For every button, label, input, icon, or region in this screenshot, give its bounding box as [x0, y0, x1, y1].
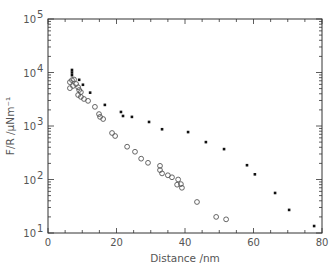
x-tick-label: 20 [110, 237, 123, 248]
data-point [146, 160, 151, 165]
data-point [214, 214, 219, 219]
x-tick-label: 80 [316, 237, 329, 248]
data-point [246, 164, 249, 167]
data-point [71, 69, 74, 72]
x-tick-labels: 020406080 [45, 237, 329, 248]
y-tick-label: 10 [23, 14, 36, 25]
data-point [313, 225, 316, 228]
x-tick-label: 40 [179, 237, 192, 248]
y-axis-label: F/R /μNm⁻¹ [4, 97, 16, 155]
data-point [97, 112, 102, 117]
x-tick-label: 60 [247, 237, 260, 248]
data-point [288, 209, 291, 212]
scatter-chart: 020406080 101102103104105 Distance /nm F… [0, 0, 333, 271]
y-tick-exponent: 4 [37, 63, 43, 74]
plot-frame [48, 19, 322, 233]
data-point [195, 200, 200, 205]
data-point [113, 134, 118, 139]
data-point [110, 131, 115, 136]
data-point [223, 148, 226, 151]
y-tick-exponent: 2 [37, 170, 43, 181]
data-point [78, 79, 81, 82]
series-filled [71, 69, 316, 228]
data-point [148, 121, 151, 124]
data-point [82, 83, 85, 86]
data-point [170, 175, 175, 180]
data-point [274, 192, 277, 195]
data-point [176, 177, 181, 182]
data-point [122, 115, 125, 118]
series-open [68, 77, 229, 222]
x-axis-label: Distance /nm [150, 252, 220, 264]
data-point [71, 74, 74, 77]
data-point [86, 98, 91, 103]
data-point [139, 156, 144, 161]
data-point [205, 141, 208, 144]
x-tick-label: 0 [45, 237, 51, 248]
data-point [125, 144, 130, 149]
y-tick-labels: 101102103104105 [23, 9, 43, 239]
data-point [120, 111, 123, 114]
data-point [93, 104, 98, 109]
data-point [254, 173, 257, 176]
data-point [224, 217, 229, 222]
y-tick-label: 10 [23, 121, 36, 132]
y-tick-label: 10 [23, 228, 36, 239]
data-point [89, 91, 92, 94]
y-tick-label: 10 [23, 68, 36, 79]
y-tick-label: 10 [23, 175, 36, 186]
y-tick-exponent: 5 [37, 9, 43, 20]
y-tick-exponent: 1 [37, 223, 43, 234]
data-point [104, 104, 107, 107]
data-series [68, 69, 316, 228]
data-point [187, 131, 190, 134]
data-point [71, 71, 74, 74]
plot-border [48, 19, 322, 233]
data-point [161, 128, 164, 131]
data-point [131, 116, 134, 119]
data-point [133, 149, 138, 154]
axis-ticks [48, 19, 322, 233]
y-tick-exponent: 3 [37, 116, 43, 127]
